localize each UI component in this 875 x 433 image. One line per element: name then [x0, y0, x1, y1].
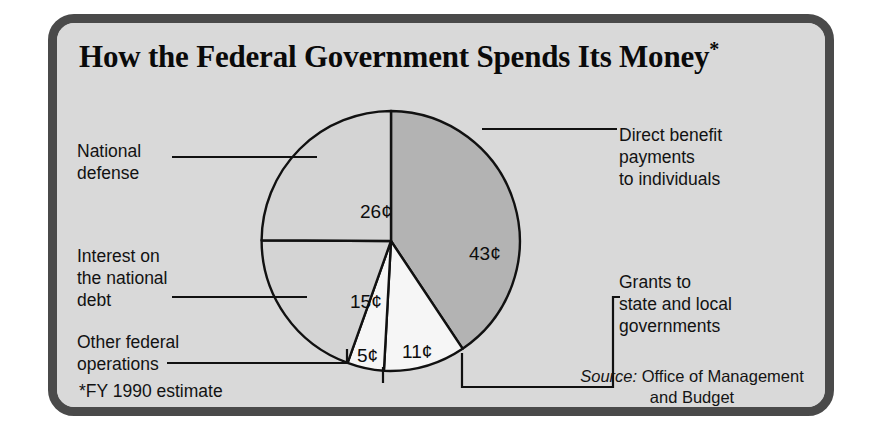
leader-line-other-federal — [167, 349, 347, 363]
source-label: Source: — [580, 367, 637, 385]
footnote: *FY 1990 estimate — [79, 380, 223, 402]
callout-national-defense: National defense — [77, 140, 141, 184]
callout-interest-on-national-debt: Interest on the national debt — [77, 245, 168, 311]
callout-other-federal-operations: Other federal operations — [77, 331, 179, 375]
slice-value-direct-benefit: 43¢ — [469, 243, 501, 265]
infographic-page: How the Federal Government Spends Its Mo… — [0, 0, 875, 433]
chart-frame: How the Federal Government Spends Its Mo… — [48, 14, 834, 416]
callout-grants-to-state-and-local: Grants to state and local governments — [619, 271, 732, 337]
source-note: Source: Office of Management and Budget — [557, 366, 827, 408]
slice-value-grants: 11¢ — [402, 341, 432, 363]
slice-value-interest: 15¢ — [350, 291, 382, 313]
source-line-2: and Budget — [557, 387, 827, 408]
chart-frame-inner: How the Federal Government Spends Its Mo… — [57, 23, 825, 407]
callout-direct-benefit-payments: Direct benefit payments to individuals — [619, 124, 722, 190]
slice-value-national-defense: 26¢ — [360, 201, 392, 223]
slice-value-other-federal: 5¢ — [357, 345, 378, 367]
source-line-1: Office of Management — [637, 367, 804, 385]
